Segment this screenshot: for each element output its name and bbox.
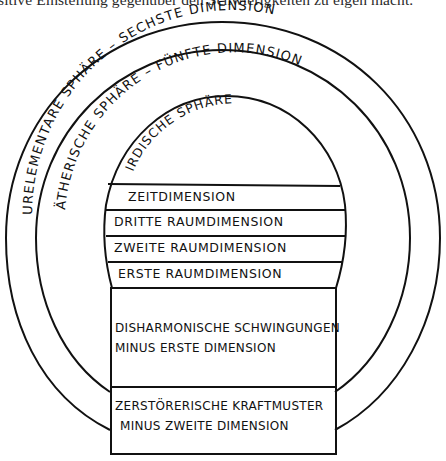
box-label-destructive-line1: ZERSTÖRERISCHE KRAFTMUSTER [115, 396, 324, 416]
band-label-first-space: ERSTE RAUMDIMENSION [118, 268, 282, 281]
band-label-third-space: DRITTE RAUMDIMENSION [114, 216, 284, 229]
box-label-destructive-line2: MINUS ZWEITE DIMENSION [120, 416, 289, 436]
band-label-time: ZEITDIMENSION [128, 191, 236, 204]
band-divider [108, 184, 340, 186]
box-label-disharmonic-line2: MINUS ERSTE DIMENSION [115, 338, 276, 358]
band-label-second-space: ZWEITE RAUMDIMENSION [114, 242, 287, 255]
inner-arc-label: IRDISCHE SPHÄRE [122, 91, 233, 173]
box-label-disharmonic-line1: DISHARMONISCHE SCHWINGUNGEN [115, 318, 340, 338]
spheres-diagram: URELEMENTARE SPHÄRE – SECHSTE DIMENSION … [0, 0, 446, 461]
